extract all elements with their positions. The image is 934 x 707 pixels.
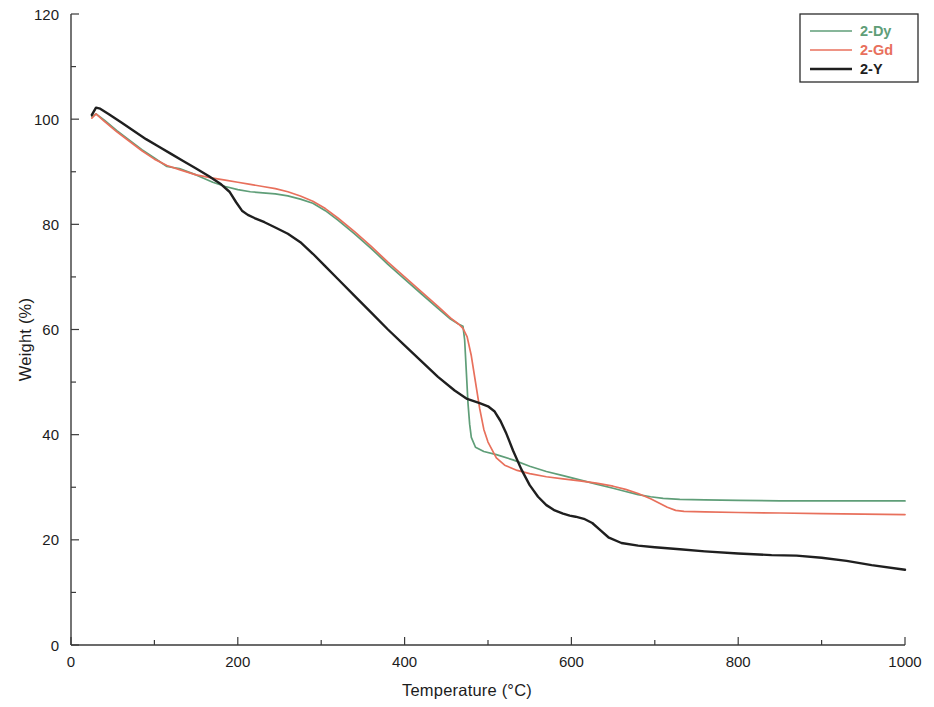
y-tick-label: 20: [42, 531, 59, 548]
x-tick-label: 600: [559, 653, 584, 670]
y-tick-label: 80: [42, 216, 59, 233]
y-tick-label: 60: [42, 321, 59, 338]
series-line-2-dy: [92, 114, 905, 501]
legend-label-2-y: 2-Y: [860, 61, 883, 77]
series-group: [92, 108, 905, 570]
x-tick-label: 0: [67, 653, 75, 670]
axis-group: 02004006008001000020406080100120: [34, 6, 922, 671]
tga-chart: 02004006008001000020406080100120 2-Dy2-G…: [0, 0, 934, 707]
x-axis-title: Temperature (°C): [0, 681, 934, 700]
legend-label-2-gd: 2-Gd: [860, 42, 893, 58]
y-tick-label: 40: [42, 426, 59, 443]
x-tick-label: 800: [726, 653, 751, 670]
legend-box: 2-Dy2-Gd2-Y: [800, 14, 918, 82]
x-tick-label: 400: [392, 653, 417, 670]
y-tick-label: 0: [51, 637, 59, 654]
x-tick-label: 200: [225, 653, 250, 670]
plot-canvas: 02004006008001000020406080100120 2-Dy2-G…: [0, 0, 934, 707]
y-tick-label: 100: [34, 111, 59, 128]
x-tick-label: 1000: [888, 653, 921, 670]
y-tick-label: 120: [34, 6, 59, 23]
legend-label-2-dy: 2-Dy: [860, 23, 891, 39]
legend-frame: [800, 14, 918, 82]
y-axis-title: Weight (%): [16, 260, 35, 420]
